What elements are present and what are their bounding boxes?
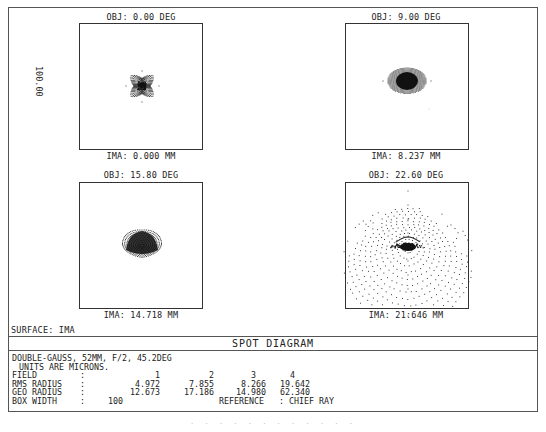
panel-3-obj-label: OBJ: 15.80 DEG [104, 170, 178, 180]
panel-2-obj-label: OBJ: 9.00 DEG [371, 12, 440, 22]
box-width-value: 100 [108, 397, 123, 406]
panel-4-spot-plot [346, 183, 470, 310]
lens-description: DOUBLE-GAUSS, 52MM, F/2, 45.2DEG UNITS A… [12, 354, 172, 371]
surface-label: SURFACE: IMA [11, 325, 75, 335]
box-width-label: BOX WIDTH [12, 397, 57, 406]
spot-diagram-plot-area: 100.00 OBJ: 0.00 DEG IMA: 0.000 MM OBJ: … [0, 0, 546, 336]
panel-4-obj-label: OBJ: 22.60 DEG [369, 170, 443, 180]
panel-1-spot-plot [80, 24, 204, 151]
geo-1: 12.673 [130, 388, 160, 397]
reference-label: REFERENCE : CHIEF RAY [219, 397, 334, 406]
panel-1-obj-label: OBJ: 0.00 DEG [106, 12, 175, 22]
divider-bottom [8, 350, 538, 351]
geo-2: 17.186 [184, 388, 214, 397]
panel-3-spot-plot [80, 183, 204, 310]
box-width-sep: : [80, 397, 85, 406]
panel-1-ima-label: IMA: 0.000 MM [106, 151, 175, 161]
panel-3-ima-label: IMA: 14.718 MM [104, 310, 178, 320]
panel-4-ima-label: IMA: 21:646 MM [369, 310, 443, 320]
panel-2-spot-plot [346, 24, 470, 151]
box-scale-label: 100.00 [34, 66, 44, 97]
panel-2-ima-label: IMA: 8.237 MM [371, 151, 440, 161]
page-caption: · · · · · · · · · · · · [0, 420, 546, 428]
diagram-title: SPOT DIAGRAM [8, 337, 538, 350]
panel-3-spot-box [79, 182, 203, 309]
panel-1-spot-box [79, 23, 203, 150]
panel-4-spot-box [345, 182, 469, 309]
panel-2-spot-box [345, 23, 469, 150]
